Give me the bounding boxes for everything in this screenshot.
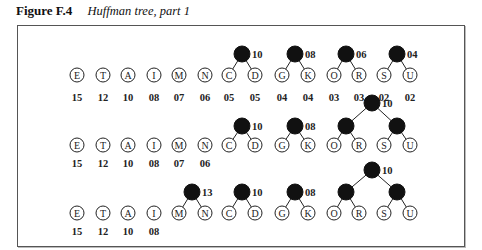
leaf-letter: K <box>304 208 312 219</box>
leaf-letter: C <box>226 208 233 219</box>
leaf-letter: E <box>74 140 80 151</box>
leaf-letter: O <box>330 140 337 151</box>
leaf-frequency: 05 <box>250 92 261 103</box>
leaf-frequency: 07 <box>174 92 185 103</box>
leaf-letter: N <box>201 140 208 151</box>
leaf-letter: S <box>381 208 387 219</box>
leaf-letter: C <box>226 140 233 151</box>
internal-node-root <box>364 95 380 111</box>
huffman-tree-diagram: 10 08 06 04 E T A I M N C D G K O R S U … <box>0 0 482 250</box>
leaf-letter: O <box>330 70 337 81</box>
leaf-frequency: 03 <box>354 92 365 103</box>
leaf-letter: M <box>175 70 184 81</box>
leaf-letter: G <box>278 70 285 81</box>
leaf-letter: C <box>226 70 233 81</box>
leaf-frequency: 03 <box>329 92 340 103</box>
internal-node <box>184 184 200 200</box>
leaf-letter: T <box>100 208 106 219</box>
node-weight: 04 <box>407 49 418 60</box>
internal-node-root <box>364 162 380 178</box>
leaf-letter: K <box>304 70 312 81</box>
internal-node <box>234 118 250 134</box>
leaf-letter: T <box>100 70 106 81</box>
leaf-frequency: 12 <box>98 226 109 237</box>
leaf-letter: S <box>381 70 387 81</box>
internal-node <box>389 46 405 62</box>
leaf-letter: G <box>278 140 285 151</box>
leaf-frequency: 04 <box>303 92 314 103</box>
leaf-letter: O <box>330 208 337 219</box>
leaf-nodes: E T A I M N C D G K O R S U <box>70 138 417 152</box>
leaf-letter: M <box>175 140 184 151</box>
leaf-letter: U <box>406 140 414 151</box>
leaf-frequencies: 15 12 10 08 <box>72 226 160 237</box>
row-1: 10 08 06 04 E T A I M N C D G K O R S U … <box>70 46 418 103</box>
internal-node <box>287 118 303 134</box>
internal-node <box>338 118 354 134</box>
node-weight: 10 <box>252 49 263 60</box>
leaf-letter: R <box>356 208 363 219</box>
leaf-frequency: 15 <box>72 158 83 169</box>
leaf-letter: N <box>201 70 208 81</box>
leaf-frequency: 05 <box>224 92 235 103</box>
leaf-frequency: 06 <box>200 158 211 169</box>
leaf-nodes: E T A I M N C D G K O R S U <box>70 68 417 82</box>
node-weight: 10 <box>252 187 263 198</box>
leaf-letter: N <box>201 208 208 219</box>
leaf-letter: U <box>406 208 414 219</box>
leaf-frequency: 10 <box>123 92 134 103</box>
node-weight: 10 <box>252 121 263 132</box>
node-weight: 13 <box>202 187 213 198</box>
leaf-frequency: 10 <box>123 226 134 237</box>
leaf-letter: I <box>152 140 155 151</box>
internal-node <box>338 184 354 200</box>
leaf-letter: R <box>356 140 363 151</box>
leaf-letter: A <box>124 208 132 219</box>
internal-node <box>287 184 303 200</box>
leaf-letter: R <box>356 70 363 81</box>
internal-node <box>389 184 405 200</box>
internal-node <box>287 46 303 62</box>
node-weight: 10 <box>382 98 393 109</box>
internal-node <box>338 46 354 62</box>
leaf-letter: M <box>175 208 184 219</box>
leaf-letter: G <box>278 208 285 219</box>
leaf-frequency: 15 <box>72 226 83 237</box>
leaf-frequency: 08 <box>149 226 160 237</box>
leaf-letter: U <box>406 70 414 81</box>
leaf-frequency: 12 <box>98 92 109 103</box>
node-weight: 06 <box>356 49 367 60</box>
leaf-letter: D <box>251 208 258 219</box>
leaf-letter: K <box>304 140 312 151</box>
leaf-frequency: 08 <box>149 92 160 103</box>
leaf-frequency: 04 <box>277 92 288 103</box>
leaf-letter: E <box>74 208 80 219</box>
node-weight: 10 <box>382 165 393 176</box>
leaf-letter: I <box>152 208 155 219</box>
leaf-letter: T <box>100 140 106 151</box>
leaf-frequency: 15 <box>72 92 83 103</box>
leaf-frequency: 02 <box>405 92 416 103</box>
internal-node <box>389 118 405 134</box>
node-weight: 08 <box>305 49 316 60</box>
leaf-frequency: 07 <box>174 158 185 169</box>
leaf-frequency: 12 <box>98 158 109 169</box>
leaf-letter: D <box>251 70 258 81</box>
row-2: 10 08 10 E T A I M N C D G K O R S U 15 … <box>70 95 417 169</box>
row-3: 13 10 08 10 E T A I M N C D G K O R S U … <box>70 162 417 237</box>
internal-node <box>234 46 250 62</box>
internal-node <box>234 184 250 200</box>
leaf-letter: D <box>251 140 258 151</box>
leaf-letter: A <box>124 70 132 81</box>
node-weight: 08 <box>305 121 316 132</box>
leaf-frequencies: 15 12 10 08 07 06 <box>72 158 211 169</box>
node-weight: 08 <box>305 187 316 198</box>
leaf-frequency: 10 <box>123 158 134 169</box>
leaf-nodes: E T A I M N C D G K O R S U <box>70 206 417 220</box>
leaf-letter: I <box>152 70 155 81</box>
leaf-letter: E <box>74 70 80 81</box>
leaf-frequency: 06 <box>200 92 211 103</box>
leaf-letter: S <box>381 140 387 151</box>
leaf-letter: A <box>124 140 132 151</box>
leaf-frequency: 08 <box>149 158 160 169</box>
